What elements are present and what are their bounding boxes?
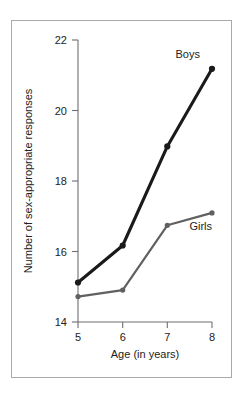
boys-point-age-5: [75, 279, 81, 285]
x-axis-ticks: [78, 322, 212, 328]
x-tick-label-8: 8: [209, 331, 215, 343]
y-tick-label-18: 18: [55, 175, 67, 187]
boys-point-age-8: [209, 66, 215, 72]
series-label-boys: Boys: [176, 48, 201, 60]
boys-line: [78, 69, 212, 283]
y-tick-label-22: 22: [55, 34, 67, 46]
line-chart: 22 20 18 16 14 5 6 7 8: [0, 0, 252, 394]
girls-point-age-6: [120, 288, 125, 293]
y-axis-title: Number of sex-appropriate responses: [22, 88, 34, 273]
series-boys: [75, 66, 215, 286]
girls-point-age-7: [165, 223, 170, 228]
axis-lines: [78, 40, 212, 322]
girls-point-age-5: [75, 294, 80, 299]
y-axis-tick-labels: 22 20 18 16 14: [55, 34, 67, 328]
y-tick-label-20: 20: [55, 105, 67, 117]
figure-root: 22 20 18 16 14 5 6 7 8: [0, 0, 252, 394]
x-tick-label-6: 6: [120, 331, 126, 343]
y-tick-label-14: 14: [55, 316, 67, 328]
x-axis-title: Age (in years): [111, 348, 179, 360]
boys-point-age-6: [120, 242, 126, 248]
girls-point-age-8: [209, 210, 214, 215]
y-tick-label-16: 16: [55, 246, 67, 258]
x-tick-label-5: 5: [75, 331, 81, 343]
x-axis-tick-labels: 5 6 7 8: [75, 331, 215, 343]
series-label-girls: Girls: [189, 220, 212, 232]
x-tick-label-7: 7: [164, 331, 170, 343]
boys-point-age-7: [164, 143, 170, 149]
